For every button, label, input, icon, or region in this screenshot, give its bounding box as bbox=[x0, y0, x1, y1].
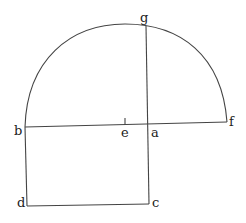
label-b: b bbox=[14, 123, 22, 138]
line-gc bbox=[146, 26, 149, 204]
label-g: g bbox=[140, 10, 148, 25]
label-f: f bbox=[229, 114, 235, 129]
label-e: e bbox=[121, 125, 129, 140]
label-c: c bbox=[152, 195, 159, 210]
construction-figure: g b e a f d c bbox=[0, 0, 246, 223]
label-a: a bbox=[151, 125, 159, 140]
diagram-canvas: g b e a f d c bbox=[0, 0, 246, 223]
semicircle-arc-bgf bbox=[25, 24, 227, 127]
line-dc bbox=[27, 204, 149, 206]
label-d: d bbox=[17, 195, 25, 210]
